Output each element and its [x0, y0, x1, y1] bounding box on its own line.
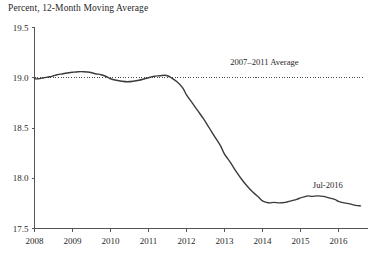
- series-line-percent-moving-average: [35, 72, 361, 206]
- x-tick-label: 2009: [64, 236, 83, 246]
- x-tick-label: 2013: [216, 236, 235, 246]
- x-tick-label: 2014: [254, 236, 273, 246]
- x-axis-tick-marks: [35, 229, 339, 233]
- x-tick-label: 2016: [330, 236, 349, 246]
- y-tick-label: 19.5: [13, 23, 29, 33]
- x-axis-tick-labels: 200820092010201120122013201420152016: [26, 236, 349, 246]
- y-tick-label: 18.5: [13, 123, 29, 133]
- last-observation-label: Jul-2016: [313, 180, 344, 190]
- average-reference-label: 2007–2011 Average: [230, 57, 299, 67]
- x-tick-label: 2012: [178, 236, 196, 246]
- y-tick-label: 18.0: [13, 173, 29, 183]
- x-tick-label: 2015: [292, 236, 311, 246]
- x-tick-label: 2010: [102, 236, 121, 246]
- line-chart-plot: 19.519.018.518.017.5 2008200920102011201…: [0, 0, 376, 259]
- x-tick-label: 2008: [26, 236, 45, 246]
- y-axis-tick-labels: 19.519.018.518.017.5: [13, 23, 29, 234]
- chart-figure: Percent, 12-Month Moving Average 19.519.…: [0, 0, 376, 259]
- y-tick-label: 19.0: [13, 73, 29, 83]
- y-tick-label: 17.5: [13, 224, 29, 234]
- x-tick-label: 2011: [140, 236, 158, 246]
